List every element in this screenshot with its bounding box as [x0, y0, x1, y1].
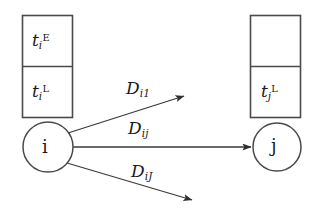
symbol-t: t [32, 81, 39, 101]
arc-label-top: Di1 [126, 80, 150, 98]
subscript-i1: i1 [140, 87, 150, 99]
node-circle-j [253, 123, 301, 171]
time-window-box-j [251, 16, 301, 118]
superscript-L: L [271, 83, 278, 94]
time-window-earliest-i: tiE [32, 32, 50, 50]
arc-top [68, 96, 184, 133]
arc-top-line [68, 96, 184, 133]
superscript-L: L [42, 83, 49, 94]
time-window-latest-i: tiL [32, 83, 49, 101]
node-label-j: j [271, 137, 277, 155]
node-label-i: i [42, 138, 48, 156]
symbol-D: D [128, 118, 142, 138]
superscript-E: E [42, 32, 49, 43]
arc-label-bottom: DiJ [131, 163, 153, 181]
time-window-latest-j: tjL [261, 83, 278, 101]
time-window-box-i [23, 16, 73, 118]
symbol-t: t [261, 81, 268, 101]
symbol-D: D [126, 78, 140, 98]
subscript-ij: ij [142, 127, 149, 139]
symbol-D: D [131, 161, 145, 181]
diagram-canvas: tiE tiL tjL i j Di1 Dij DiJ [0, 0, 323, 215]
arc-label-middle: Dij [128, 120, 149, 138]
arc-bottom-line [67, 163, 192, 200]
node-circle-i [23, 122, 73, 172]
arc-bottom [67, 163, 192, 200]
subscript-iJ: iJ [145, 170, 153, 182]
symbol-t: t [32, 30, 39, 50]
